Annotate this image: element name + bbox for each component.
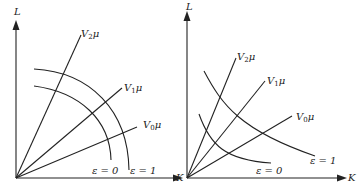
diagram-root: L K V2μ V1μ V0μ ε = 0 ε = 1 L K V2μ V1μ … [0, 0, 363, 194]
right-ray-v2-label: V2μ [237, 52, 255, 64]
left-x-axis-label: K [176, 173, 183, 183]
right-curve-eps0-label: ε = 0 [256, 166, 282, 176]
left-curve-eps1-label: ε = 1 [130, 166, 156, 176]
left-y-axis-label: L [14, 7, 21, 17]
right-y-arrow-icon [184, 11, 191, 21]
left-ray-v0-label: V0μ [143, 120, 161, 132]
right-ray-v0-label: V0μ [296, 112, 314, 124]
right-ray-v1 [187, 81, 265, 178]
left-ray-v1-label: V1μ [124, 83, 142, 95]
left-curve-eps0-label: ε = 0 [92, 166, 118, 176]
left-curve-eps0 [34, 86, 111, 160]
right-x-arrow-icon [337, 175, 347, 182]
right-y-axis-label: L [186, 2, 193, 12]
left-y-arrow-icon [13, 20, 20, 30]
left-ray-v2 [16, 35, 81, 178]
left-ray-v2-label: V2μ [81, 29, 99, 41]
diagram-svg [0, 0, 363, 194]
left-curve-eps1 [34, 69, 129, 170]
right-ray-v1-label: V1μ [267, 76, 285, 88]
left-ray-v0 [16, 127, 137, 178]
right-ray-v2 [187, 58, 236, 178]
right-curve-eps1-label: ε = 1 [310, 156, 336, 166]
right-x-axis-label: K [348, 173, 355, 183]
